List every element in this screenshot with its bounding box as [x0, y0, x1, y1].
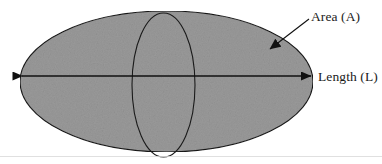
figure-canvas: Area (A) Length (L) [0, 0, 382, 164]
outer-ellipse-shape [20, 11, 313, 152]
ellipse-diagram: Area (A) Length (L) [0, 0, 382, 164]
length-label: Length (L) [318, 69, 378, 84]
area-label: Area (A) [311, 9, 360, 24]
